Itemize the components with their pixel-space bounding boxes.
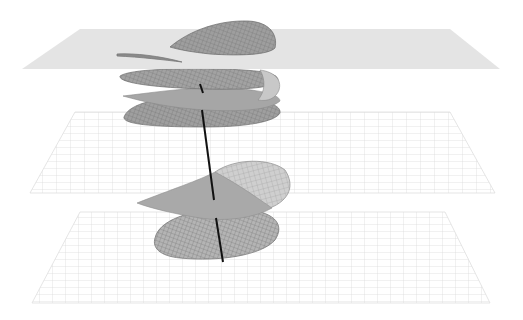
middle-spiral-surface [120, 69, 280, 127]
helicoid-figure [0, 0, 523, 320]
figure-canvas [0, 0, 523, 320]
